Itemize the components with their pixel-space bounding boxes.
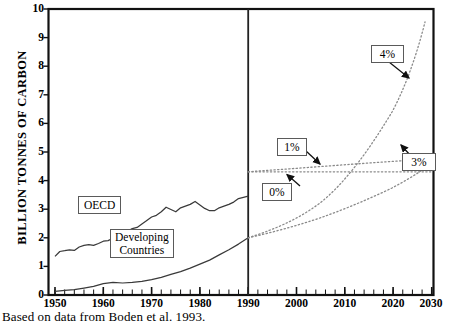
series-label-developing-countries: Developing Countries: [110, 229, 174, 258]
series-label-oecd: OECD: [78, 196, 121, 214]
callout-3pct: 3%: [402, 153, 436, 171]
developing-countries-line2: Countries: [115, 244, 169, 257]
figure-caption: Based on data from Boden et al. 1993.: [2, 309, 205, 325]
figure-carbon-emissions-projection: BILLION TONNES OF CARBON 10 9 8 7 6 5 4 …: [0, 0, 454, 333]
callout-1pct: 1%: [277, 138, 307, 156]
developing-countries-line1: Developing: [115, 231, 169, 244]
callout-0pct: 0%: [262, 183, 292, 201]
callout-4pct: 4%: [371, 45, 404, 63]
